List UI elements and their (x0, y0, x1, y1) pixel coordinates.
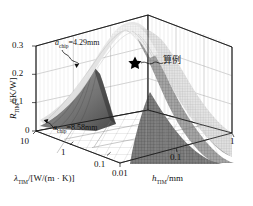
x-tick-10: 10 (20, 137, 29, 146)
annotation-achip-4-29: achip=4.29mm (55, 39, 99, 49)
figure-container: 0.3 0.2 0.1 0 RTIM/[K/W] 10 1 0.1 λTIM/[… (0, 0, 253, 206)
x-tick-0-1: 0.1 (94, 160, 105, 169)
x-axis-label-unit: /[W/(m · K)] (28, 173, 74, 183)
annotation-lower-value: =8.58mm (66, 123, 97, 132)
z-axis-label: RTIM/[K/W] (9, 77, 20, 119)
z-axis-label-var: R (8, 114, 18, 120)
z-tick-0-3: 0.3 (12, 41, 23, 50)
annotation-upper-value: =4.29mm (68, 38, 99, 47)
annotation-achip-8-58: achip=8.58mm (53, 124, 97, 134)
y-axis-label: hTIM/mm (152, 174, 183, 185)
y-tick-1: 1 (230, 137, 235, 146)
z-axis-label-sub: TIM (14, 103, 20, 113)
z-axis-label-unit: /[K/W] (8, 77, 18, 103)
y-tick-0-01: 0.01 (112, 169, 128, 178)
z-tick-0: 0 (25, 126, 30, 135)
z-axis-ticks (32, 46, 36, 131)
x-tick-1: 1 (61, 148, 66, 157)
y-tick-0-1: 0.1 (170, 153, 181, 162)
marker-label: 算例 (163, 56, 181, 65)
x-axis-label-sub: TIM (18, 179, 28, 185)
y-axis-label-sub: TIM (157, 179, 167, 185)
x-axis-label: λTIM/[W/(m · K)] (14, 174, 74, 185)
y-axis-label-unit: /mm (167, 173, 184, 183)
